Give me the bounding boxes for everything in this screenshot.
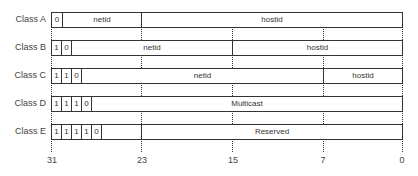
tick-bit-7: 7 bbox=[320, 155, 325, 165]
class-a-hostid: hostid bbox=[141, 12, 403, 28]
class-b-label: Class B bbox=[0, 42, 46, 52]
class-c-label: Class C bbox=[0, 70, 46, 80]
class-e-label: Class E bbox=[0, 126, 46, 136]
class-a-netid: netid bbox=[62, 12, 142, 28]
class-d-label: Class D bbox=[0, 98, 46, 108]
tick-bit-23: 23 bbox=[137, 155, 147, 165]
class-a-label: Class A bbox=[0, 14, 46, 24]
class-c-hostid: hostid bbox=[323, 68, 403, 84]
class-b-hostid: hostid bbox=[232, 40, 403, 56]
tick-bit-31: 31 bbox=[47, 155, 57, 165]
class-e-pad bbox=[101, 124, 142, 140]
class-d-multicast: Multicast bbox=[91, 96, 403, 112]
class-b-netid: netid bbox=[71, 40, 233, 56]
tick-bit-0: 0 bbox=[399, 155, 404, 165]
class-e-reserved: Reserved bbox=[141, 124, 403, 140]
class-c-netid: netid bbox=[81, 68, 324, 84]
tick-bit-15: 15 bbox=[228, 155, 238, 165]
